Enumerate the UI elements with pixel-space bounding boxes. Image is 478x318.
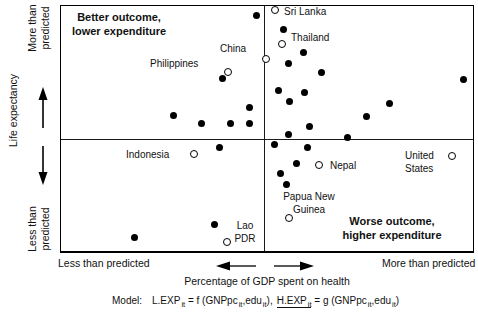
x-axis-less-than-predicted: Less than predicted [58,257,150,269]
formula-term: = g (GNPpc [311,295,366,306]
formula-underlined-term: H.EXPit [277,295,312,308]
data-point [216,144,223,151]
data-point [300,49,307,56]
y-axis-less-than-predicted: Less than predicted [26,199,52,259]
data-point [293,160,300,167]
country-label: Sri Lanka [284,5,334,18]
data-point [275,87,282,94]
x-axis-more-than-predicted: More than predicted [382,257,475,269]
formula-subscript: it [308,300,312,309]
formula-term: ,edu [242,295,261,306]
formula-subscript: it [263,300,267,309]
data-point [460,76,467,83]
data-point [301,89,308,96]
data-point [131,234,138,241]
data-point [271,141,278,148]
country-label: LaoPDR [232,219,258,245]
data-point [227,120,234,127]
model-formula: Model:L.EXPit = f (GNPpcit,eduit),H.EXPi… [112,295,399,306]
formula-term: ), [267,295,273,306]
y-axis-annotation-line: predicted [39,0,52,58]
data-point [285,60,292,67]
data-point [386,100,393,107]
data-point [253,12,260,19]
data-point [246,120,253,127]
formula-term: ) [396,295,399,306]
open-circle-point [223,238,231,246]
country-label: Papua NewGuinea [277,190,341,216]
open-circle-point [271,6,279,14]
open-circle-point [262,55,270,63]
country-label: China [220,42,254,55]
data-point [219,75,226,82]
formula-term: L.EXP [152,295,180,306]
x-axis-title: Percentage of GDP spent on health [60,275,474,287]
formula-term: ,edu [372,295,391,306]
formula-subscript: it [392,300,396,309]
model-label: Model: [112,295,142,306]
open-circle-point [448,152,456,160]
data-point [211,221,218,228]
formula-term: H.EXP [277,295,307,306]
data-point [304,144,311,151]
country-label: Thailand [291,31,336,44]
open-circle-point [278,40,286,48]
formula-subscript: it [181,300,185,309]
data-points-layer: Sri LankaThailandChinaPhilippinesIndones… [0,0,478,318]
country-label: Nepal [330,159,362,172]
data-point [170,112,177,119]
formula-subscript: it [239,300,243,309]
country-label: UnitedStates [405,149,443,175]
data-point [285,131,292,138]
country-label: Philippines [150,57,206,70]
data-point [246,104,253,111]
y-axis-more-than-predicted: More than predicted [26,0,52,58]
y-axis-annotation-line: predicted [39,199,52,259]
data-point [344,134,351,141]
y-axis-annotation-line: Less than [26,199,39,259]
data-point [318,69,325,76]
data-point [306,123,313,130]
open-circle-point [190,150,198,158]
data-point [286,98,293,105]
scatter-figure: Better outcome, lower expenditure Worse … [0,0,478,318]
data-point [280,26,287,33]
data-point [277,170,284,177]
y-axis-title: Life expectancy [7,66,20,156]
data-point [283,181,290,188]
data-point [363,113,370,120]
country-label: Indonesia [126,148,174,161]
open-circle-point [315,161,323,169]
y-axis-annotation-line: More than [26,0,39,58]
data-point [198,120,205,127]
open-circle-point [224,68,232,76]
formula-term: = f (GNPpc [185,295,238,306]
formula-subscript: it [368,300,372,309]
